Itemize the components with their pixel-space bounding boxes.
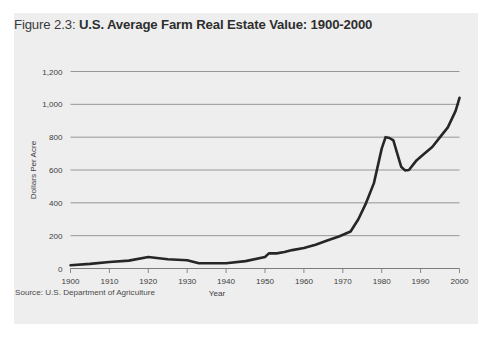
- x-tick-label: 1940: [217, 277, 236, 286]
- chart-plot: 02004006008001,0001,200 1900191019201930…: [0, 0, 491, 337]
- x-tick-label: 1970: [334, 277, 353, 286]
- y-tick-label: 400: [49, 199, 63, 208]
- x-axis-tick-marks: [71, 269, 460, 274]
- data-line: [71, 98, 460, 265]
- x-tick-label: 2000: [450, 277, 469, 286]
- y-tick-label: 200: [49, 232, 63, 241]
- source-note: Source: U.S. Department of Agriculture: [15, 288, 155, 297]
- x-tick-label: 1950: [256, 277, 275, 286]
- data-series-group: [71, 98, 460, 265]
- x-tick-label: 1980: [373, 277, 392, 286]
- x-axis-tick-labels: 1900191019201930194019501960197019801990…: [61, 277, 469, 286]
- x-tick-label: 1990: [412, 277, 431, 286]
- axis-titles-group: YearDollars Per Acre: [29, 140, 225, 297]
- y-tick-label: 600: [49, 166, 63, 175]
- y-tick-label: 0: [58, 265, 63, 274]
- gridlines-group: [71, 72, 460, 269]
- y-tick-label: 1,000: [42, 100, 63, 109]
- x-tick-label: 1930: [178, 277, 197, 286]
- x-tick-label: 1910: [100, 277, 119, 286]
- y-axis-tick-labels: 02004006008001,0001,200: [42, 68, 63, 274]
- y-tick-label: 1,200: [42, 68, 63, 77]
- x-axis-title: Year: [209, 289, 226, 298]
- figure-container: Figure 2.3: U.S. Average Farm Real Estat…: [0, 0, 491, 337]
- x-tick-label: 1900: [61, 277, 80, 286]
- x-tick-label: 1960: [295, 277, 314, 286]
- x-tick-label: 1920: [139, 277, 158, 286]
- y-axis-title: Dollars Per Acre: [29, 140, 38, 199]
- y-tick-label: 800: [49, 133, 63, 142]
